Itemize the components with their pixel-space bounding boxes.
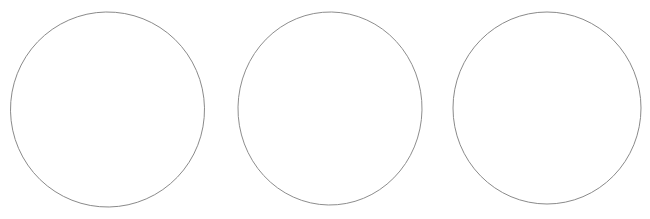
canvas-background xyxy=(0,0,650,219)
circles-figure xyxy=(0,0,650,219)
drawing-canvas xyxy=(0,0,650,219)
